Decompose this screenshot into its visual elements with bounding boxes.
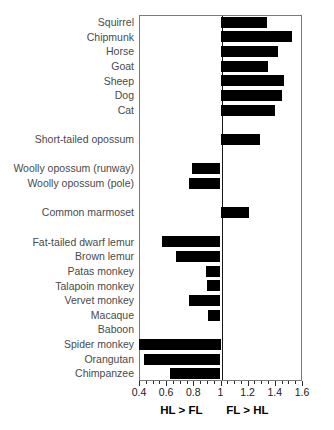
category-label: Chipmunk xyxy=(87,30,134,45)
category-label: Patas monkey xyxy=(67,264,134,279)
x-tick-label: 0.8 xyxy=(186,386,201,398)
category-label: Fat-tailed dwarf lemur xyxy=(32,235,134,250)
minor-tick xyxy=(180,381,181,384)
x-tick-label: 0.4 xyxy=(132,386,147,398)
category-label: Vervet monkey xyxy=(65,293,134,308)
chart-row-spacer xyxy=(0,117,334,132)
chart-row: Common marmoset xyxy=(0,205,334,220)
chart-row: Squirrel xyxy=(0,15,334,30)
category-label: Sheep xyxy=(104,74,134,89)
category-label: Goat xyxy=(111,59,134,74)
minor-tick xyxy=(207,381,208,384)
bar xyxy=(221,105,275,116)
chart-row: Cat xyxy=(0,103,334,118)
chart-row: Orangutan xyxy=(0,352,334,367)
minor-tick xyxy=(234,381,235,384)
chart-row: Macaque xyxy=(0,308,334,323)
bar xyxy=(189,178,220,189)
bar xyxy=(192,163,221,174)
bar xyxy=(162,236,220,247)
bar-rows-container: SquirrelChipmunkHorseGoatSheepDogCatShor… xyxy=(0,15,334,381)
chart-row: Spider monkey xyxy=(0,337,334,352)
bar xyxy=(176,251,221,262)
chart-row: Horse xyxy=(0,44,334,59)
chart-row: Baboon xyxy=(0,322,334,337)
bar xyxy=(221,207,250,218)
chart-row-spacer xyxy=(0,220,334,235)
category-label: Macaque xyxy=(91,308,134,323)
chart-row-spacer xyxy=(0,191,334,206)
chart-row: Sheep xyxy=(0,74,334,89)
chart-row: Goat xyxy=(0,59,334,74)
x-tick-label: 0.6 xyxy=(159,386,174,398)
minor-tick xyxy=(241,381,242,384)
category-label: Baboon xyxy=(98,322,134,337)
category-label: Spider monkey xyxy=(64,337,134,352)
category-label: Common marmoset xyxy=(42,205,134,220)
category-label: Dog xyxy=(115,88,134,103)
chart-row: Talapoin monkey xyxy=(0,279,334,294)
minor-tick xyxy=(261,381,262,384)
category-label: Brown lemur xyxy=(75,249,134,264)
chart-row: Brown lemur xyxy=(0,249,334,264)
minor-tick xyxy=(254,381,255,384)
x-tick-label: 1.6 xyxy=(295,386,310,398)
minor-tick xyxy=(282,381,283,384)
x-tick-label: 1 xyxy=(218,386,224,398)
category-label: Cat xyxy=(118,103,134,118)
category-label: Talapoin monkey xyxy=(55,279,134,294)
chart-row: Patas monkey xyxy=(0,264,334,279)
minor-tick xyxy=(200,381,201,384)
bar xyxy=(206,266,221,277)
bar xyxy=(189,295,220,306)
bar xyxy=(207,280,221,291)
x-tick-label: 1.2 xyxy=(240,386,255,398)
bar xyxy=(221,61,269,72)
chart-row: Vervet monkey xyxy=(0,293,334,308)
minor-tick xyxy=(295,381,296,384)
category-label: Short-tailed opossum xyxy=(35,132,134,147)
chart-row: Fat-tailed dwarf lemur xyxy=(0,235,334,250)
x-axis-caption: HL > FL FL > HL xyxy=(0,404,334,420)
axis-label-fl-gt-hl: FL > HL xyxy=(226,404,268,416)
x-axis-tick-labels: 0.40.60.811.21.41.6 xyxy=(0,386,334,400)
bar xyxy=(144,354,220,365)
x-tick-label: 1.4 xyxy=(268,386,283,398)
bar xyxy=(139,339,221,350)
minor-tick xyxy=(214,381,215,384)
chart-row: Woolly opossum (pole) xyxy=(0,176,334,191)
chart-row-spacer xyxy=(0,147,334,162)
category-label: Squirrel xyxy=(98,15,134,30)
bar xyxy=(221,17,267,28)
bar xyxy=(221,134,260,145)
bar xyxy=(221,46,278,57)
bar xyxy=(170,368,220,379)
bar xyxy=(208,310,220,321)
chart-figure: SquirrelChipmunkHorseGoatSheepDogCatShor… xyxy=(0,0,334,430)
chart-row: Dog xyxy=(0,88,334,103)
minor-tick xyxy=(159,381,160,384)
axis-label-hl-gt-fl: HL > FL xyxy=(160,404,202,416)
chart-row: Chimpanzee xyxy=(0,366,334,381)
category-label: Chimpanzee xyxy=(75,366,134,381)
category-label: Woolly opossum (pole) xyxy=(27,176,134,191)
category-label: Orangutan xyxy=(84,352,134,367)
minor-tick xyxy=(187,381,188,384)
minor-tick xyxy=(288,381,289,384)
minor-tick xyxy=(146,381,147,384)
minor-tick xyxy=(227,381,228,384)
minor-tick xyxy=(268,381,269,384)
minor-tick xyxy=(153,381,154,384)
chart-row: Short-tailed opossum xyxy=(0,132,334,147)
chart-row: Chipmunk xyxy=(0,30,334,45)
category-label: Woolly opossum (runway) xyxy=(13,161,134,176)
bar xyxy=(221,75,285,86)
chart-row: Woolly opossum (runway) xyxy=(0,161,334,176)
bar xyxy=(221,31,293,42)
minor-tick xyxy=(173,381,174,384)
bar xyxy=(221,90,282,101)
category-label: Horse xyxy=(106,44,134,59)
